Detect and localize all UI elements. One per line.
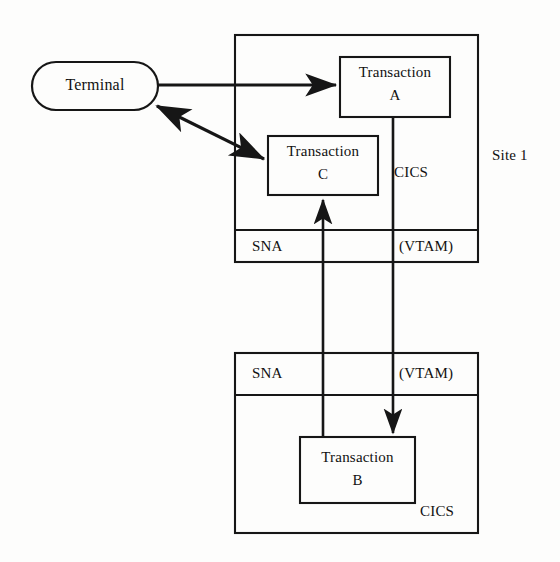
site-2-cics-label: CICS bbox=[420, 503, 454, 520]
transaction-c-label-line2: C bbox=[268, 166, 378, 183]
transaction-b-label-line1: Transaction bbox=[300, 449, 415, 466]
connector-terminal-to-c bbox=[157, 106, 264, 159]
transaction-a-label-line1: Transaction bbox=[340, 64, 450, 81]
transaction-b-box bbox=[300, 437, 415, 503]
transaction-c-label-line1: Transaction bbox=[268, 143, 378, 160]
site-1-outer-label: Site 1 bbox=[492, 147, 528, 164]
site-2-sna-label: SNA bbox=[252, 365, 283, 382]
transaction-a-label-line2: A bbox=[340, 87, 450, 104]
site-1-cics-label: CICS bbox=[394, 164, 428, 181]
site-1-vtam-label: (VTAM) bbox=[399, 238, 453, 255]
site-1-sna-label: SNA bbox=[252, 238, 283, 255]
transaction-b-label-line2: B bbox=[300, 472, 415, 489]
diagram-canvas: Terminal Transaction A Transaction C Tra… bbox=[0, 0, 560, 562]
terminal-label: Terminal bbox=[32, 76, 158, 94]
site-2-vtam-label: (VTAM) bbox=[399, 365, 453, 382]
